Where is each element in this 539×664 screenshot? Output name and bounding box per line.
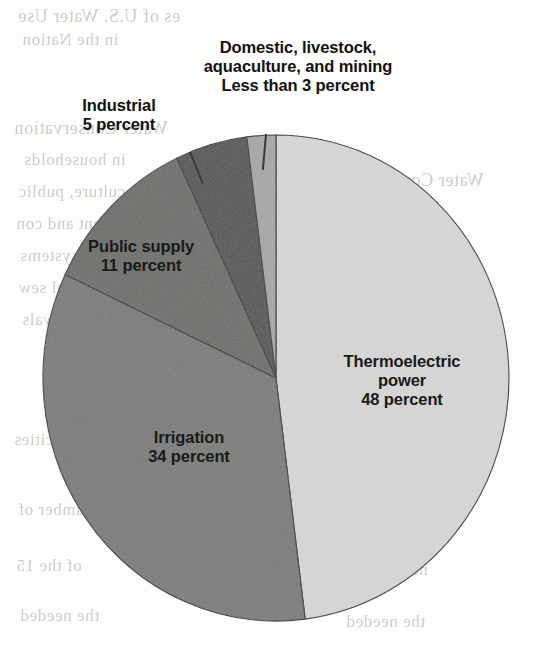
slice-label-public-supply: Public supply 11 percent: [66, 237, 216, 275]
slice-label-domestic-livestock-aquaculture-mining: Domestic, livestock, aquaculture, and mi…: [193, 38, 403, 95]
figure-page: es of U.S. Water Use in the Nation Water…: [0, 0, 539, 664]
slice-label-irrigation: Irrigation 34 percent: [104, 428, 274, 466]
slice-label-thermoelectric-power: Thermoelectric power 48 percent: [322, 352, 482, 409]
slice-label-industrial: Industrial 5 percent: [54, 96, 184, 134]
